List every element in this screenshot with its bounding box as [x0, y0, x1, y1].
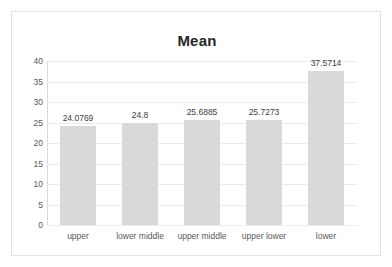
y-axis-tick-label: 10	[15, 179, 43, 189]
chart-title: Mean	[12, 32, 382, 49]
y-axis-tick-label: 20	[15, 138, 43, 148]
y-axis-tick-label: 30	[15, 97, 43, 107]
gridline	[47, 225, 357, 226]
bar[interactable]	[308, 71, 344, 225]
bar-value-label: 25.6885	[167, 107, 237, 117]
bar[interactable]	[246, 120, 282, 225]
y-axis-tick-label: 40	[15, 56, 43, 66]
y-axis-tick-label: 0	[15, 220, 43, 230]
y-axis-tick-label: 25	[15, 118, 43, 128]
plot-area	[47, 61, 357, 225]
bar-value-label: 24.0769	[43, 113, 113, 123]
bar[interactable]	[60, 126, 96, 225]
x-axis-category-label: lower	[286, 231, 366, 241]
bar[interactable]	[184, 120, 220, 225]
chart-frame: Mean 0510152025303540 24.0769upper24.8lo…	[11, 11, 381, 256]
bar-value-label: 37.5714	[291, 58, 361, 68]
y-axis-tick-label: 35	[15, 77, 43, 87]
bar-value-label: 24.8	[105, 110, 175, 120]
y-axis-tick-label: 5	[15, 200, 43, 210]
bar[interactable]	[122, 123, 158, 225]
y-axis: 0510152025303540	[12, 61, 43, 226]
bar-value-label: 25.7273	[229, 107, 299, 117]
y-axis-tick-label: 15	[15, 159, 43, 169]
